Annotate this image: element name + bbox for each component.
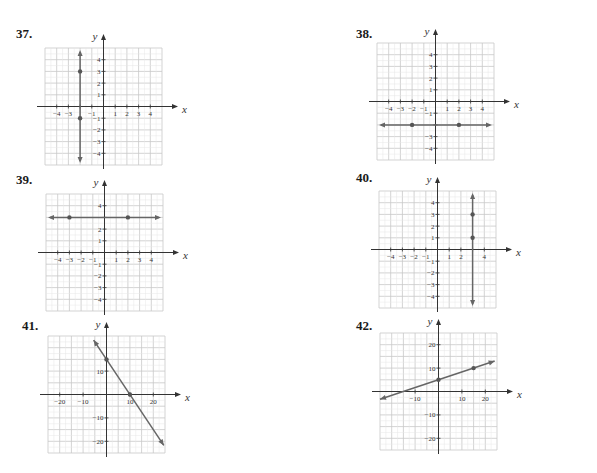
- x-tick-label: −3: [397, 105, 405, 113]
- y-axis-label: y: [426, 173, 432, 185]
- x-tick-label: 3: [137, 110, 141, 118]
- y-tick-label: 2: [431, 223, 435, 231]
- y-tick-label: −1: [427, 258, 435, 266]
- y-axis-label: y: [93, 176, 99, 188]
- problem-number: 41.: [22, 318, 38, 334]
- x-tick-label: 4: [149, 110, 153, 118]
- data-point: [67, 215, 71, 219]
- axes: xy−4−3−2−11234421−1−2−3−4: [38, 176, 188, 315]
- x-tick-label: −2: [408, 105, 416, 113]
- x-axis-label: x: [184, 391, 190, 403]
- coordinate-graph: xy−20−10102010−10−20: [40, 318, 190, 457]
- x-tick-label: 2: [457, 105, 461, 113]
- y-tick-label: 3: [97, 68, 101, 76]
- y-tick-label: 2: [97, 80, 101, 88]
- y-tick-label: 4: [98, 202, 102, 210]
- problem-number: 38.: [356, 26, 372, 42]
- x-tick-label: 1: [113, 110, 117, 118]
- y-tick-label: −2: [94, 272, 102, 280]
- y-tick-label: 1: [97, 91, 101, 99]
- data-point: [78, 116, 82, 120]
- y-tick-label: −3: [93, 138, 101, 146]
- y-tick-label: 1: [431, 234, 435, 242]
- y-tick-label: −2: [427, 269, 435, 277]
- y-tick-label: 4: [431, 199, 435, 207]
- problem-number: 37.: [16, 26, 32, 42]
- data-point: [457, 123, 461, 127]
- data-point: [78, 69, 82, 73]
- y-tick-label: 1: [429, 86, 433, 94]
- y-tick-label: −10: [425, 411, 436, 419]
- y-tick-label: −1: [425, 110, 433, 118]
- x-tick-label: −4: [54, 256, 62, 264]
- x-tick-label: −4: [385, 105, 393, 113]
- x-tick-label: 20: [482, 395, 490, 403]
- y-tick-label: −4: [93, 150, 101, 158]
- y-axis-label: y: [427, 315, 433, 327]
- coordinate-graph: xy−4−3−112344321−1−2−3−4: [37, 30, 187, 169]
- x-tick-label: 3: [138, 256, 142, 264]
- data-point: [104, 357, 108, 361]
- data-point: [470, 236, 474, 240]
- y-axis-label: y: [95, 318, 101, 330]
- axes: xy−4−3−2−112344321−1−3−4: [369, 25, 519, 164]
- x-tick-label: −20: [54, 398, 65, 406]
- y-tick-label: 10: [429, 365, 437, 373]
- y-tick-label: −3: [425, 133, 433, 141]
- coordinate-graph: xy−4−3−2−112344321−1−3−4: [369, 25, 519, 164]
- y-tick-label: −20: [93, 438, 104, 446]
- x-tick-label: −2: [410, 253, 418, 261]
- y-tick-label: −4: [94, 296, 102, 304]
- y-tick-label: 1: [98, 237, 102, 245]
- axes: xy−4−3−2−11244321−1−2−3−4: [371, 173, 521, 312]
- y-tick-label: −10: [93, 414, 104, 422]
- x-tick-label: −4: [53, 110, 61, 118]
- data-point: [410, 123, 414, 127]
- x-tick-label: −4: [387, 253, 395, 261]
- problem-number: 40.: [356, 170, 372, 186]
- y-tick-label: −4: [425, 145, 433, 153]
- y-tick-label: 4: [429, 51, 433, 59]
- x-tick-label: −3: [66, 256, 74, 264]
- y-tick-label: −3: [427, 281, 435, 289]
- x-tick-label: −3: [399, 253, 407, 261]
- axes: xy−20−10102010−10−20: [40, 318, 190, 457]
- y-tick-label: −4: [427, 293, 435, 301]
- x-tick-label: −10: [410, 395, 421, 403]
- axes: xy−1010202010−10−20: [372, 315, 522, 454]
- x-tick-label: 1: [114, 256, 118, 264]
- y-tick-label: −20: [425, 435, 436, 443]
- x-axis-label: x: [181, 103, 187, 115]
- x-tick-label: 2: [126, 256, 130, 264]
- x-tick-label: −10: [78, 398, 89, 406]
- x-axis-label: x: [513, 98, 519, 110]
- graphs-canvas: xy−4−3−112344321−1−2−3−4xy−4−3−2−1123443…: [0, 0, 597, 473]
- data-point: [471, 366, 475, 370]
- y-axis-label: y: [92, 30, 98, 42]
- coordinate-graph: xy−4−3−2−11244321−1−2−3−4: [371, 173, 521, 312]
- y-tick-label: −1: [93, 115, 101, 123]
- x-tick-label: 3: [469, 105, 473, 113]
- x-tick-label: −2: [77, 256, 85, 264]
- problem-number: 42.: [356, 318, 372, 334]
- x-tick-label: 2: [459, 253, 463, 261]
- x-tick-label: 4: [481, 105, 485, 113]
- data-point: [436, 378, 440, 382]
- x-tick-label: 4: [483, 253, 487, 261]
- y-tick-label: 20: [429, 341, 437, 349]
- data-point: [126, 215, 130, 219]
- x-tick-label: 1: [447, 253, 451, 261]
- x-axis-label: x: [515, 246, 521, 258]
- x-tick-label: 4: [150, 256, 154, 264]
- x-tick-label: 10: [458, 395, 466, 403]
- y-tick-label: −2: [93, 126, 101, 134]
- problem-number: 39.: [16, 172, 32, 188]
- x-axis-label: x: [516, 388, 522, 400]
- x-tick-label: 2: [125, 110, 129, 118]
- coordinate-graph: xy−1010202010−10−20: [372, 315, 522, 454]
- x-tick-label: 1: [445, 105, 449, 113]
- axes: xy−4−3−112344321−1−2−3−4: [37, 30, 187, 169]
- y-tick-label: −3: [94, 284, 102, 292]
- y-tick-label: 2: [429, 75, 433, 83]
- x-tick-label: 20: [150, 398, 158, 406]
